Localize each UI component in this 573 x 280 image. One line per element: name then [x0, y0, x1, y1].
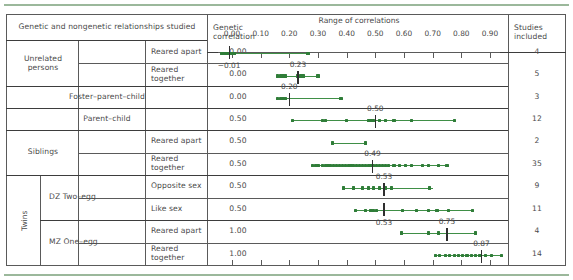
data-point-7-5: [401, 209, 404, 212]
row-sub-6: Opposite sex: [147, 175, 205, 198]
x-tick-top-5: [375, 53, 376, 58]
data-point-0-7: [306, 52, 309, 55]
studies-included-3: 12: [510, 108, 564, 130]
studies-included-0: 4: [510, 41, 564, 63]
x-tick-top-7: [433, 53, 434, 58]
median-marker-6: [383, 183, 384, 196]
data-point-9-3: [448, 254, 451, 257]
x-tick-label-7: 0.70: [424, 29, 440, 38]
row-sub-0: Reared apart: [147, 41, 205, 63]
data-point-7-0: [354, 209, 357, 212]
x-tick-bottom-6: [404, 260, 405, 265]
data-point-7-1: [364, 209, 367, 212]
data-point-6-2: [361, 186, 364, 189]
median-label-8: 0.75: [439, 217, 455, 226]
data-point-3-11: [453, 119, 456, 122]
data-point-3-9: [392, 119, 395, 122]
studies-included-5: 35: [510, 153, 564, 175]
data-point-7-7: [427, 209, 430, 212]
x-tick-label-0: 0.00: [224, 29, 240, 38]
median-marker-2: [289, 93, 290, 106]
data-point-7-8: [435, 209, 438, 212]
median-marker-8: [446, 228, 447, 241]
median-label-7: 0.53: [376, 218, 392, 227]
median-marker-0: [229, 46, 230, 59]
data-point-9-4: [453, 254, 456, 257]
data-point-5-32: [427, 164, 430, 167]
data-point-1-3: [284, 74, 287, 77]
studies-included-7: 11: [510, 198, 564, 220]
range-bar-6: [342, 188, 432, 189]
data-point-7-9: [447, 209, 450, 212]
median-label-5: 0.49: [364, 149, 380, 158]
data-point-9-11: [484, 254, 487, 257]
row-sub-8: Reared apart: [147, 220, 205, 243]
x-tick-bottom-7: [433, 260, 434, 265]
median-label-1: 0.23: [290, 60, 306, 69]
x-tick-label-1: 0.10: [252, 29, 268, 38]
x-tick-bottom-5: [375, 260, 376, 265]
data-point-4-1: [364, 141, 367, 144]
data-point-6-4: [372, 186, 375, 189]
x-tick-bottom-2: [289, 260, 290, 265]
data-point-2-3: [284, 97, 287, 100]
bottom-rule: [4, 274, 569, 276]
data-point-6-0: [342, 186, 345, 189]
studies-included-6: 9: [510, 175, 564, 198]
data-point-9-1: [438, 254, 441, 257]
data-point-5-29: [404, 164, 407, 167]
x-tick-top-8: [461, 53, 462, 58]
data-point-9-6: [461, 254, 464, 257]
median-marker-5: [372, 160, 373, 173]
group-foster-parent-child: Foster–parent–child: [8, 86, 206, 108]
median-marker-9: [481, 250, 482, 263]
row-sub-1: Reared together: [147, 63, 205, 86]
data-point-6-8: [428, 186, 431, 189]
studies-included-1: 5: [510, 63, 564, 86]
chart-bottom-axis: [218, 265, 500, 266]
x-tick-bottom-9: [490, 260, 491, 265]
header-relationships: Genetic and nongenetic relationships stu…: [8, 14, 206, 40]
data-point-5-28: [398, 164, 401, 167]
data-point-9-13: [500, 254, 503, 257]
studies-included-9: 14: [510, 243, 564, 265]
data-point-6-5: [378, 186, 381, 189]
data-point-6-1: [352, 186, 355, 189]
x-tick-top-3: [318, 53, 319, 58]
group-parent-child: Parent–child: [8, 108, 206, 130]
x-tick-top-6: [404, 53, 405, 58]
median-marker-7: [383, 203, 384, 216]
figure-root: Genetic and nongenetic relationships stu…: [0, 0, 573, 280]
data-point-1-7: [316, 74, 319, 77]
group-twins: Twins: [8, 175, 40, 266]
x-tick-label-9: 0.90: [482, 29, 498, 38]
data-point-5-34: [445, 164, 448, 167]
data-point-7-4: [375, 209, 378, 212]
row-sub-7: Like sex: [147, 198, 205, 220]
data-point-9-5: [457, 254, 460, 257]
data-point-1-6: [301, 74, 304, 77]
x-tick-top-4: [347, 53, 348, 58]
data-point-5-31: [421, 164, 424, 167]
data-point-9-2: [444, 254, 447, 257]
x-tick-bottom-4: [347, 260, 348, 265]
data-point-8-0: [400, 231, 403, 234]
x-tick-bottom-0: [232, 260, 233, 265]
data-point-3-3: [345, 119, 348, 122]
studies-included-8: 4: [510, 220, 564, 243]
median-marker-3: [375, 115, 376, 128]
x-tick-label-4: 0.40: [338, 29, 354, 38]
row-sub-9: Reared together: [147, 243, 205, 265]
data-point-3-10: [410, 119, 413, 122]
chart-title: Range of correlations: [218, 16, 500, 25]
data-point-2-4: [339, 97, 342, 100]
median-label-3: 0.50: [367, 104, 383, 113]
data-point-9-8: [470, 254, 473, 257]
range-bar-4: [331, 143, 367, 144]
x-tick-bottom-8: [461, 260, 462, 265]
median-label-0: −0.01: [218, 61, 241, 70]
data-point-0-6: [233, 52, 236, 55]
data-point-3-7: [378, 119, 381, 122]
data-point-7-10: [471, 209, 474, 212]
x-tick-label-2: 0.20: [281, 29, 297, 38]
